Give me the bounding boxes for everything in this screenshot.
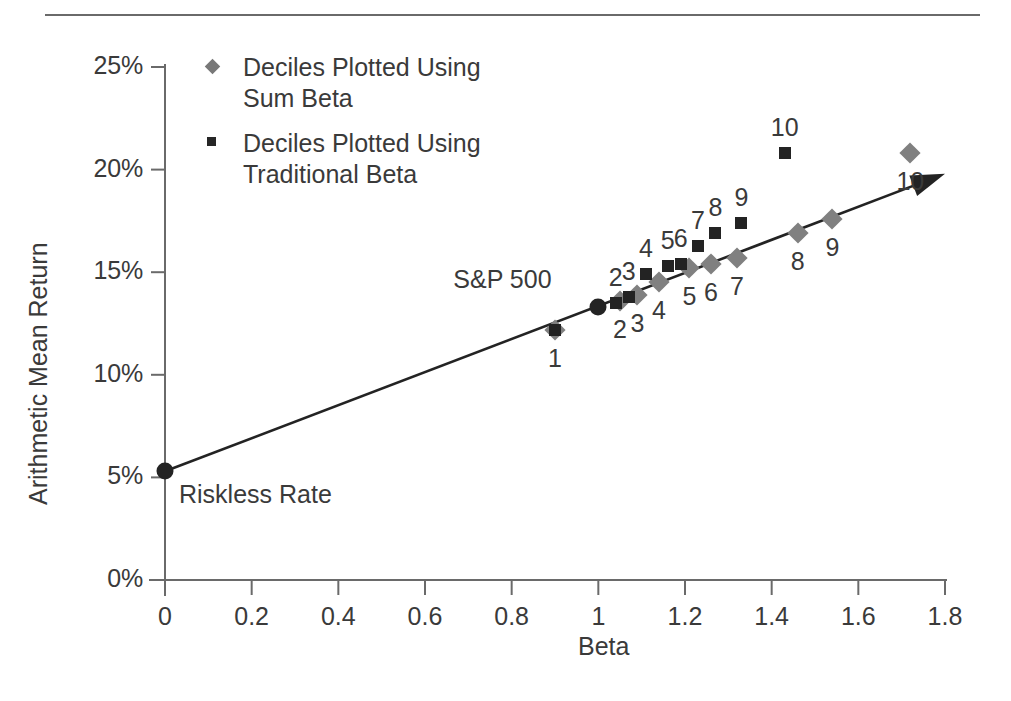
- data-point-square-4: [640, 268, 652, 280]
- data-point-label-square-2: 2: [609, 262, 623, 291]
- plot-canvas: [0, 0, 1011, 701]
- x-axis-tick-label: 1.4: [722, 602, 822, 631]
- data-point-square-7: [692, 240, 704, 252]
- x-axis-tick-label: 0: [115, 602, 215, 631]
- data-point-square-1: [549, 324, 561, 336]
- annotation-sp-500: S&P 500: [453, 265, 551, 294]
- data-point-label-diamond-4: 4: [652, 296, 666, 325]
- data-point-label-square-10: 10: [771, 113, 799, 142]
- data-point-label-square-3: 3: [622, 256, 636, 285]
- x-axis-tick-label: 1.6: [808, 602, 908, 631]
- x-axis-tick-label: 1.8: [895, 602, 995, 631]
- legend-swatch-cell: [207, 128, 243, 146]
- data-point-square-6: [675, 258, 687, 270]
- reference-marker-riskless-rate: [157, 463, 174, 480]
- data-point-square-10: [779, 147, 791, 159]
- y-axis-title: Arithmetic Mean Return: [24, 242, 53, 505]
- data-point-square-2: [610, 297, 622, 309]
- chart-legend: Deciles Plotted Using Sum Beta Deciles P…: [207, 52, 481, 204]
- diamond-marker-icon: [205, 59, 221, 75]
- y-axis-tick-label: 20%: [37, 154, 143, 183]
- data-point-label-square-8: 8: [708, 193, 722, 222]
- legend-item-traditional-beta: Deciles Plotted Using Traditional Beta: [207, 128, 481, 190]
- y-axis-tick-label: 0%: [37, 564, 143, 593]
- data-point-label-square-7: 7: [691, 205, 705, 234]
- chart-figure: 0%5%10%15%20%25%00.20.40.60.811.21.41.61…: [0, 0, 1011, 701]
- data-point-label-square-9: 9: [734, 182, 748, 211]
- data-point-label-square-5: 5: [661, 226, 675, 255]
- x-axis-tick-label: 0.8: [462, 602, 562, 631]
- x-axis-title: Beta: [578, 632, 629, 661]
- x-axis-tick-label: 0.4: [288, 602, 388, 631]
- data-point-label-diamond-3: 3: [630, 308, 644, 337]
- data-point-square-8: [709, 227, 721, 239]
- data-point-label-diamond-10: 10: [896, 167, 924, 196]
- data-point-square-3: [623, 291, 635, 303]
- data-point-label-diamond-5: 5: [682, 282, 696, 311]
- data-point-label-diamond-8: 8: [791, 247, 805, 276]
- data-point-label-diamond-7: 7: [730, 271, 744, 300]
- annotation-riskless-rate: Riskless Rate: [179, 480, 332, 509]
- data-point-label-diamond-2: 2: [613, 314, 627, 343]
- data-point-label-diamond-1: 1: [548, 343, 562, 372]
- x-axis-tick-label: 1: [548, 602, 648, 631]
- data-point-label-diamond-6: 6: [704, 277, 718, 306]
- data-point-label-square-4: 4: [639, 234, 653, 263]
- legend-swatch-cell: [207, 52, 243, 72]
- x-axis-tick-label: 0.2: [202, 602, 302, 631]
- data-point-square-5: [662, 260, 674, 272]
- legend-label-traditional-beta: Deciles Plotted Using Traditional Beta: [243, 128, 481, 190]
- data-point-square-9: [735, 217, 747, 229]
- y-axis-tick-label: 25%: [37, 51, 143, 80]
- legend-label-sum-beta: Deciles Plotted Using Sum Beta: [243, 52, 481, 114]
- x-axis-tick-label: 0.6: [375, 602, 475, 631]
- reference-marker-sp-500: [590, 299, 607, 316]
- square-marker-icon: [207, 137, 216, 146]
- x-axis-tick-label: 1.2: [635, 602, 735, 631]
- legend-item-sum-beta: Deciles Plotted Using Sum Beta: [207, 52, 481, 114]
- data-point-label-square-6: 6: [674, 223, 688, 252]
- data-point-label-diamond-9: 9: [825, 232, 839, 261]
